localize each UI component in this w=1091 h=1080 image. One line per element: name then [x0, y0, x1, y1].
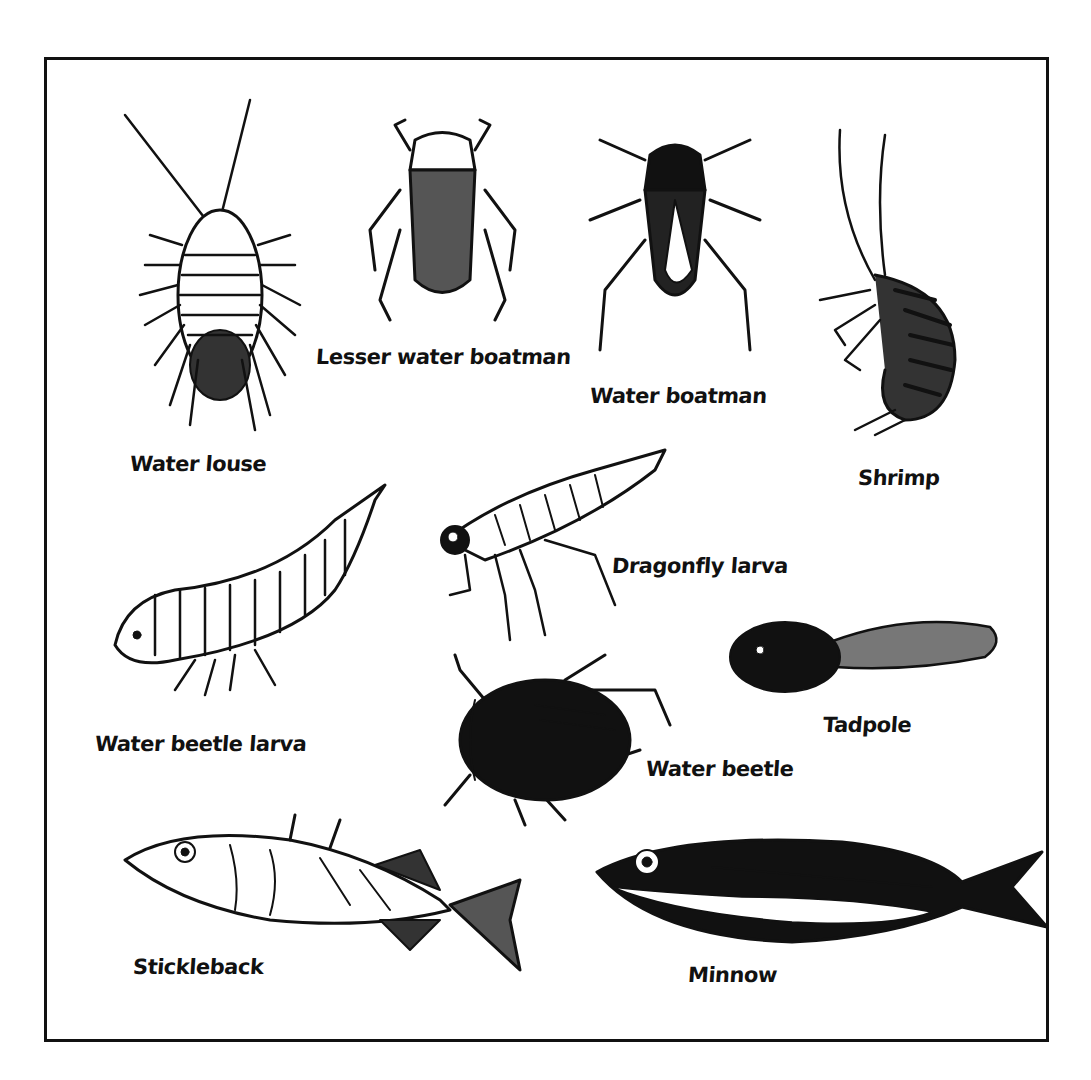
- water-beetle-illustration: [425, 650, 675, 825]
- minnow-label: Minnow: [687, 963, 778, 987]
- tadpole-label: Tadpole: [822, 713, 912, 737]
- water-boatman-illustration: [580, 130, 770, 360]
- water-beetle-larva-illustration: [105, 480, 395, 700]
- water-louse-illustration: [110, 95, 320, 435]
- water-boatman-label: Water boatman: [589, 384, 767, 408]
- lesser-water-boatman-label: Lesser water boatman: [315, 345, 571, 369]
- shrimp-illustration: [815, 130, 965, 440]
- water-beetle-larva-label: Water beetle larva: [94, 732, 307, 756]
- water-beetle-label: Water beetle: [645, 757, 794, 781]
- dragonfly-larva-illustration: [425, 445, 675, 645]
- stickleback-label: Stickleback: [132, 955, 264, 979]
- lesser-water-boatman-illustration: [360, 120, 530, 330]
- shrimp-label: Shrimp: [857, 466, 940, 490]
- tadpole-illustration: [730, 612, 1005, 702]
- dragonfly-larva-label: Dragonfly larva: [611, 554, 788, 578]
- minnow-illustration: [592, 827, 1047, 952]
- water-louse-label: Water louse: [129, 452, 267, 476]
